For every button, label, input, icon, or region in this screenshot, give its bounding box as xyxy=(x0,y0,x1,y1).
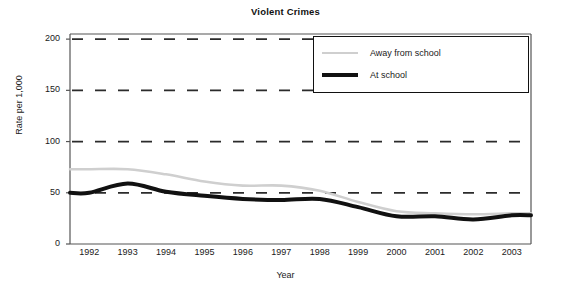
chart-figure: Violent Crimes Rate per 1,000 Year 05010… xyxy=(0,0,571,296)
y-tick-label-50: 50 xyxy=(24,187,60,197)
y-tick-label-0: 0 xyxy=(24,238,60,248)
x-tick-label-1992: 1992 xyxy=(67,247,111,257)
legend-label-at-school: At school xyxy=(370,70,407,80)
legend-item-away-from-school: Away from school xyxy=(322,44,441,62)
x-tick-label-1999: 1999 xyxy=(336,247,380,257)
y-tick-label-150: 150 xyxy=(24,84,60,94)
x-tick-label-2000: 2000 xyxy=(375,247,419,257)
x-tick-label-1995: 1995 xyxy=(182,247,226,257)
x-tick-label-1998: 1998 xyxy=(298,247,342,257)
x-tick-label-2002: 2002 xyxy=(451,247,495,257)
legend-swatch-at-school xyxy=(322,73,358,77)
y-tick-label-200: 200 xyxy=(24,33,60,43)
x-tick-label-1996: 1996 xyxy=(221,247,265,257)
x-tick-label-1993: 1993 xyxy=(106,247,150,257)
series-line-away-from-school xyxy=(70,169,531,214)
x-tick-label-1994: 1994 xyxy=(144,247,188,257)
x-tick-label-1997: 1997 xyxy=(259,247,303,257)
y-tick-label-100: 100 xyxy=(24,136,60,146)
legend-swatch-away-from-school xyxy=(322,52,358,54)
legend-label-away-from-school: Away from school xyxy=(370,48,441,58)
x-tick-label-2001: 2001 xyxy=(413,247,457,257)
series-lines xyxy=(70,169,531,220)
legend: Away from school At school xyxy=(313,36,529,93)
legend-item-at-school: At school xyxy=(322,66,407,84)
x-tick-label-2003: 2003 xyxy=(490,247,534,257)
